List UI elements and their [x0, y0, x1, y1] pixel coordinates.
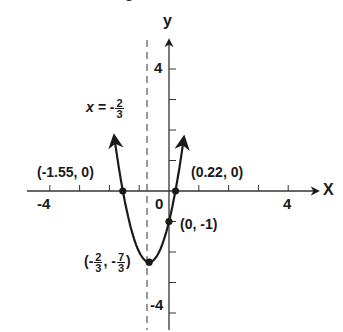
x-tick-label-neg4: -4: [37, 195, 50, 212]
point-marker: [165, 218, 172, 225]
parabola-curve: [114, 136, 184, 262]
origin-label: 0: [155, 195, 163, 212]
vertex-label: (-23, -73): [84, 252, 131, 273]
symmetry-label: x = -23: [86, 98, 125, 119]
right-root-label: (0.22, 0): [191, 164, 243, 180]
vertex-y-fraction: 73: [117, 252, 125, 273]
y-intercept-label: (0, -1): [180, 216, 217, 232]
y-axis-label: y: [163, 12, 172, 30]
symmetry-prefix: x = -: [86, 99, 114, 115]
vertex-close: ): [126, 253, 131, 269]
y-tick-label-neg4: -4: [150, 296, 163, 313]
left-root-label: (-1.55, 0): [37, 164, 94, 180]
x-axis-label: X: [323, 181, 334, 199]
vertex-y-denominator: 3: [117, 263, 125, 273]
y-tick-label-4: 4: [154, 59, 162, 76]
vertex-x-fraction: 23: [94, 252, 102, 273]
point-marker: [146, 259, 153, 266]
symmetry-denominator: 3: [115, 109, 123, 119]
vertex-open: (-: [84, 253, 93, 269]
vertex-x-denominator: 3: [94, 263, 102, 273]
point-marker: [172, 187, 179, 194]
x-tick-label-4: 4: [283, 195, 291, 212]
point-marker: [119, 187, 126, 194]
vertex-separator: , -: [103, 253, 115, 269]
symmetry-fraction: 23: [115, 98, 123, 119]
